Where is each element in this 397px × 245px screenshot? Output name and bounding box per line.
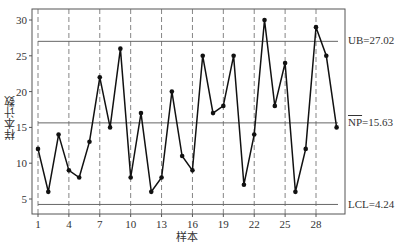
data-point [46,190,51,195]
y-tick-label: 5 [22,193,28,205]
y-tick-label: 30 [16,14,28,26]
center-line-value: =15.63 [362,116,393,128]
data-point [273,104,278,109]
data-point [221,104,226,109]
data-point [262,18,267,23]
data-point [200,54,205,59]
data-point [211,111,216,116]
x-tick-label: 28 [311,218,323,230]
lcl-label: LCL=4.24 [348,198,394,210]
data-series-line [38,20,337,192]
data-point [149,190,154,195]
data-point [190,168,195,173]
data-point [36,147,41,152]
x-axis-label: 样本 [176,228,198,244]
center-line-label: NP=15.63 [348,116,393,128]
data-point [56,132,61,137]
ucl-label: UB=27.02 [348,34,394,46]
x-tick-label: 22 [249,218,260,230]
y-tick-label: 10 [16,157,28,169]
data-point [334,125,339,130]
data-point [314,25,319,30]
y-axis-label: 样本计数 [4,96,18,140]
data-point [324,54,329,59]
data-point [139,111,144,116]
data-point [303,147,308,152]
x-tick-label: 4 [66,218,72,230]
x-tick-label: 13 [156,218,168,230]
data-point [118,46,123,51]
x-tick-label: 7 [97,218,103,230]
data-point [108,125,113,130]
data-point [97,75,102,80]
x-tick-label: 19 [218,218,230,230]
x-tick-label: 10 [125,218,137,230]
data-point [242,182,247,187]
data-point [180,154,185,159]
data-point [128,175,133,180]
np-bar-symbol: NP [348,116,362,128]
data-point [293,190,298,195]
y-tick-label: 25 [16,50,28,62]
data-point [77,175,82,180]
data-point [67,168,72,173]
x-tick-label: 25 [280,218,292,230]
x-tick-label: 1 [35,218,41,230]
data-point [283,61,288,66]
np-control-chart: 5101520253014710131619222528 [0,0,397,245]
data-point [159,175,164,180]
data-point [170,89,175,94]
data-point [252,132,257,137]
data-point [231,54,236,59]
data-point [87,139,92,144]
